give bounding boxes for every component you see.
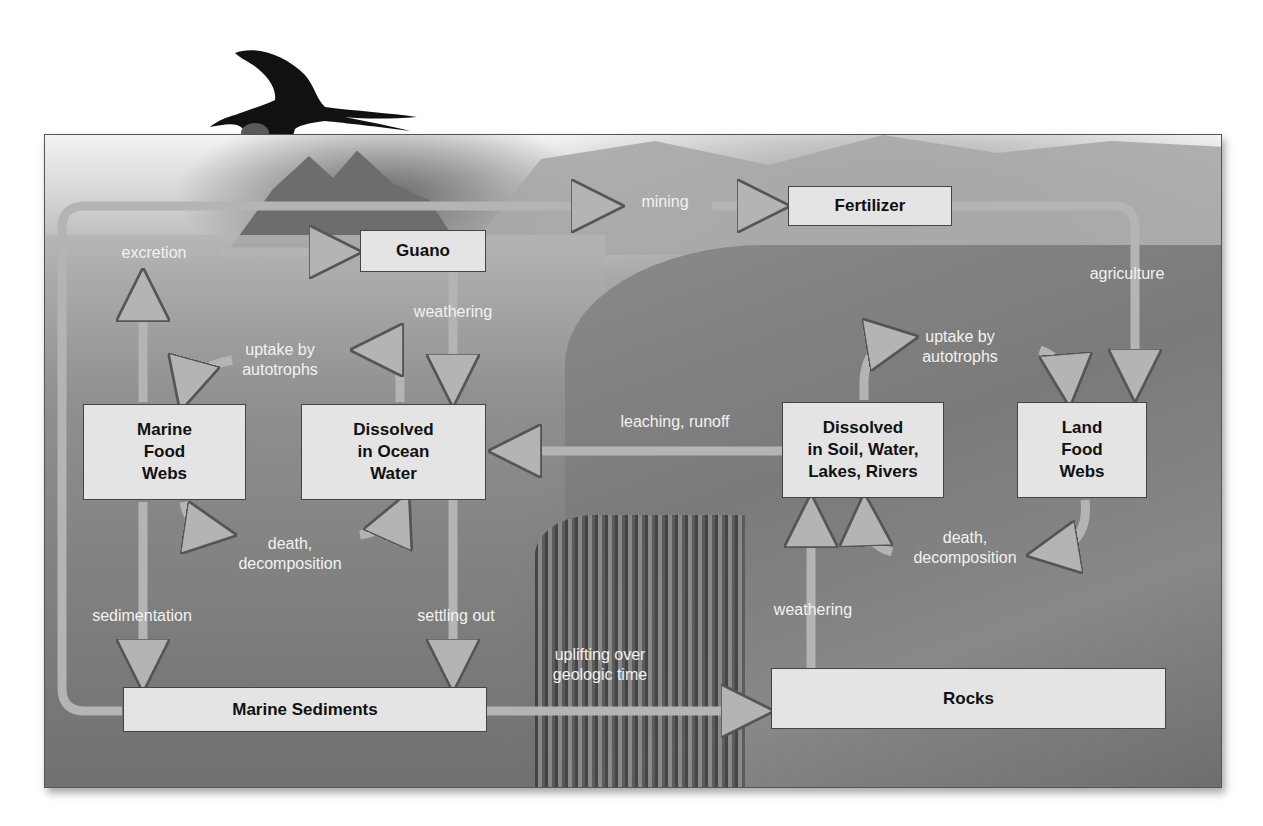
node-fertilizer: Fertilizer — [788, 186, 952, 226]
label-uptake-land: uptake by autotrophs — [900, 327, 1020, 367]
node-dissolved-ocean-water: Dissolved in Ocean Water — [301, 404, 486, 500]
label-leaching-runoff: leaching, runoff — [600, 412, 750, 432]
label-sedimentation: sedimentation — [72, 606, 212, 626]
node-land-food-webs: Land Food Webs — [1017, 402, 1147, 498]
uptake-land-arrow-2 — [1040, 350, 1068, 385]
label-death-marine: death, decomposition — [215, 534, 365, 574]
node-marine-sediments: Marine Sediments — [123, 687, 487, 732]
label-uplifting: uplifting over geologic time — [535, 645, 665, 685]
label-uptake-marine: uptake by autotrophs — [220, 340, 340, 380]
death-land-arrow-2 — [865, 515, 892, 552]
label-death-land: death, decomposition — [890, 528, 1040, 568]
death-land-arrow — [1048, 500, 1086, 552]
node-rocks: Rocks — [771, 668, 1166, 729]
label-weathering-guano: weathering — [398, 302, 508, 322]
label-weathering-rocks: weathering — [758, 600, 868, 620]
death-marine-arrow — [184, 502, 215, 532]
label-settling-out: settling out — [396, 606, 516, 626]
label-excretion: excretion — [104, 243, 204, 263]
label-agriculture: agriculture — [1072, 264, 1182, 284]
label-mining: mining — [620, 192, 710, 212]
node-marine-food-webs: Marine Food Webs — [83, 404, 246, 500]
node-guano: Guano — [360, 230, 486, 272]
death-marine-arrow-2 — [360, 512, 400, 535]
uptake-land-arrow — [864, 340, 897, 400]
node-dissolved-soil-water: Dissolved in Soil, Water, Lakes, Rivers — [782, 402, 944, 498]
uptake-marine-arrow — [372, 350, 400, 402]
